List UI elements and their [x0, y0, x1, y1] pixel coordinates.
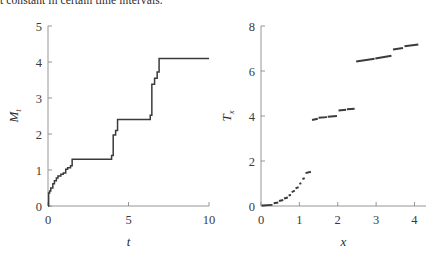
data-series-segment — [279, 200, 283, 201]
data-series-segment — [339, 110, 347, 111]
y-tick-label: 4 — [36, 56, 43, 70]
data-series-segment — [306, 172, 311, 173]
x-tick-label: 4 — [411, 213, 418, 227]
data-series-segment — [299, 183, 301, 184]
y-tick-label: 2 — [249, 155, 255, 169]
y-axis-title-sub: x — [226, 110, 236, 115]
chart-panel-right: 0246801234xTx — [214, 14, 437, 264]
y-tick-label: 0 — [249, 200, 255, 214]
data-series-segment — [289, 195, 291, 196]
figure-caption: t constant in certain time intervals. — [0, 0, 437, 7]
y-tick-label: 4 — [249, 110, 256, 124]
data-series-segment — [405, 44, 419, 46]
y-axis-title: Tx — [219, 110, 236, 121]
x-tick-label: 0 — [258, 213, 264, 227]
data-series-segment — [328, 116, 337, 117]
y-tick-label: 2 — [36, 128, 42, 142]
y-tick-label: 1 — [36, 164, 42, 178]
chart-panel-left: 0123450510tMt — [6, 14, 216, 264]
y-axis-title-text: Tx — [219, 110, 236, 121]
chart-axes — [48, 26, 209, 206]
y-tick-label: 5 — [36, 20, 42, 34]
data-series-segment — [274, 202, 279, 203]
data-series-segment — [292, 191, 295, 192]
y-axis-title-text: Mt — [6, 109, 23, 124]
x-axis-title: x — [340, 234, 347, 249]
data-series-segment — [284, 197, 288, 198]
data-series-segment — [296, 187, 299, 188]
y-tick-label: 8 — [249, 20, 255, 34]
chart-left-svg: 0123450510tMt — [6, 14, 216, 264]
y-axis-title-sub: t — [13, 109, 23, 112]
data-series-line — [48, 58, 209, 206]
chart-axes — [261, 26, 426, 206]
x-tick-label: 5 — [125, 213, 131, 227]
x-tick-label: 1 — [296, 213, 302, 227]
data-series-segment — [393, 48, 403, 49]
data-series-segment — [356, 59, 374, 62]
data-series-segment — [375, 56, 391, 59]
data-series-segment — [319, 117, 327, 118]
chart-right-svg: 0246801234xTx — [214, 14, 437, 264]
y-tick-label: 6 — [249, 65, 255, 79]
x-tick-label: 0 — [45, 213, 51, 227]
data-series-segment — [312, 119, 318, 120]
data-series-segment — [262, 205, 273, 206]
x-tick-label: 2 — [335, 213, 341, 227]
data-series-segment — [302, 178, 304, 179]
x-axis-title: t — [127, 234, 131, 249]
x-tick-label: 3 — [373, 213, 379, 227]
y-axis-title: Mt — [6, 109, 23, 124]
y-tick-label: 0 — [36, 200, 42, 214]
y-tick-label: 3 — [36, 92, 42, 106]
